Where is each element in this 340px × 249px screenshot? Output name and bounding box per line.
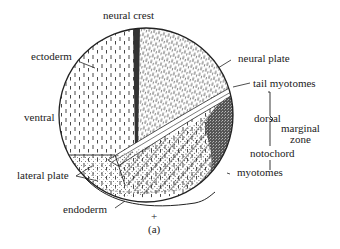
label-zone: zone <box>290 133 311 145</box>
label-endoderm: endoderm <box>63 203 107 215</box>
label-ventral: ventral <box>24 111 55 123</box>
label-neural-crest: neural crest <box>103 9 154 21</box>
center-plus-symbol: + <box>151 210 157 222</box>
embryo-regions <box>50 20 250 230</box>
label-lateral-plate: lateral plate <box>17 169 69 181</box>
label-tail-myotomes: tail myotomes <box>253 77 316 89</box>
label-dorsal: dorsal <box>254 112 281 124</box>
label-myotomes: myotomes <box>237 166 283 178</box>
label-neural-plate: neural plate <box>238 52 290 64</box>
label-ectoderm: ectoderm <box>31 50 72 62</box>
panel-label: (a) <box>148 223 161 236</box>
label-notochord: notochord <box>250 147 295 159</box>
fate-map-diagram: neural crest ectoderm neural plate tail … <box>0 0 340 249</box>
